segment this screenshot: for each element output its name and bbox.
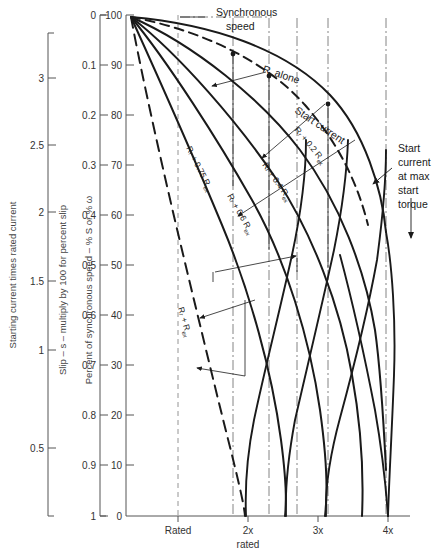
annotation-synchronous-speed-line1: Synchronous — [216, 6, 277, 18]
y-axis-1-starting-current: 3 2.5 2 1.5 1 0.5 Starting current times… — [7, 33, 56, 516]
y2-tick-2: 0.2 — [82, 110, 96, 121]
measurement-arrows — [180, 17, 411, 376]
annotation-sc-line2: current — [398, 156, 431, 168]
y1-tick-3: 1.5 — [30, 276, 44, 287]
annotation-sc-line3: at max — [398, 170, 430, 182]
arrow-start-current-max — [373, 168, 392, 184]
y2-tick-8: 0.8 — [82, 410, 96, 421]
y3-tick-7: 30 — [111, 360, 123, 371]
curve-label-075rex: Rᵣ + 0.75 Rex — [182, 144, 215, 193]
y3-tick-8: 20 — [111, 410, 123, 421]
dot-3 — [326, 102, 331, 107]
annotation-synchronous-speed-line2: speed — [226, 20, 255, 32]
x-tick-4x: 4x — [383, 525, 394, 536]
y3-tick-2: 80 — [111, 110, 123, 121]
curve-label-rex: Rᵣ + Rex — [174, 306, 194, 338]
curve-rr-plus-rex — [131, 17, 245, 516]
annotation-sc-line5: torque — [398, 198, 428, 210]
arrow-6 — [197, 368, 245, 376]
y1-tick-1: 2.5 — [30, 140, 44, 151]
chart-svg: 3 2.5 2 1.5 1 0.5 Starting current times… — [0, 0, 436, 554]
y3-tick-10: 0 — [116, 511, 122, 522]
curve-branch-b — [286, 140, 348, 516]
arrow-1 — [212, 72, 266, 86]
y2-tick-0: 0 — [90, 10, 96, 21]
y1-tick-0: 3 — [38, 73, 44, 84]
y1-tick-2: 2 — [38, 207, 44, 218]
figure-container: 3 2.5 2 1.5 1 0.5 Starting current times… — [0, 0, 436, 554]
y-axis-2-label: Slip – s – multiply by 100 for percent s… — [57, 205, 68, 375]
y-axis-1-label: Starting current times rated current — [7, 201, 18, 348]
x-tick-rated: Rated — [165, 525, 192, 536]
x-axis: Rated 2x 3x 4x rated — [126, 516, 410, 550]
x-tick-2x: 2x — [243, 525, 254, 536]
annotation-sc-line4: start — [398, 184, 419, 196]
x-axis-sublabel: rated — [237, 539, 260, 550]
y3-tick-0: 100 — [105, 10, 122, 21]
y1-tick-5: 0.5 — [30, 443, 44, 454]
y3-tick-4: 60 — [111, 210, 123, 221]
arrow-5 — [200, 300, 255, 318]
y2-tick-1: 0.1 — [82, 60, 96, 71]
y3-tick-9: 10 — [111, 460, 123, 471]
y3-tick-1: 90 — [111, 60, 123, 71]
y-axis-3-label: Percent of synchronous speed – % S or % … — [83, 195, 94, 384]
y2-tick-10: 1 — [90, 511, 96, 522]
y3-tick-3: 70 — [111, 160, 123, 171]
y2-tick-3: 0.3 — [82, 160, 96, 171]
curve-group — [131, 17, 395, 516]
annotation-sc-line1: Start — [398, 142, 420, 154]
x-tick-3x: 3x — [313, 525, 324, 536]
annotations: Synchronous speed Rr alone Start current… — [216, 6, 431, 210]
dot-1 — [231, 52, 236, 57]
y3-tick-6: 40 — [111, 310, 123, 321]
y2-tick-9: 0.9 — [82, 460, 96, 471]
curve-envelope-right — [386, 232, 395, 516]
y3-tick-5: 50 — [111, 260, 123, 271]
y1-tick-4: 1 — [38, 345, 44, 356]
y-axis-3-percent-sync-speed: 100 90 80 70 60 50 40 30 20 10 0 Percent… — [83, 10, 134, 522]
